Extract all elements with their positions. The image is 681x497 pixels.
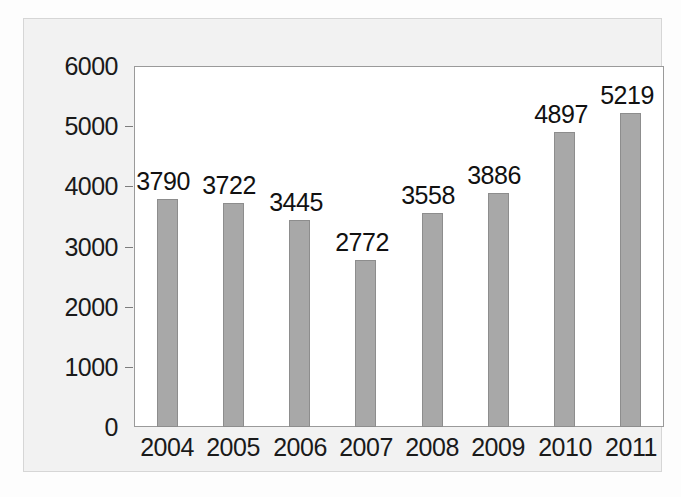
x-axis-tick-label: 2006 [265, 433, 335, 462]
bar [554, 132, 575, 427]
bar [488, 193, 509, 427]
chart-screenshot: 0100020003000400050006000 37903722344527… [0, 0, 681, 497]
y-axis-tick-mark [125, 247, 133, 248]
y-axis-tick-label: 1000 [24, 352, 118, 381]
y-axis-tick-label: 5000 [24, 112, 118, 141]
x-axis-tick-label: 2004 [132, 433, 202, 462]
bar-value-label: 2772 [329, 228, 395, 257]
bar-value-label: 3722 [196, 171, 262, 200]
x-axis-tick-label: 2010 [530, 433, 600, 462]
bar [289, 220, 310, 427]
bar [620, 113, 641, 427]
x-axis-tick-label: 2011 [596, 433, 666, 462]
bar-value-label: 3445 [263, 188, 329, 217]
x-axis-tick-label: 2008 [397, 433, 467, 462]
bar [223, 203, 244, 427]
x-axis-tick-label: 2009 [463, 433, 533, 462]
bar [422, 213, 443, 427]
bar-value-label: 3558 [395, 181, 461, 210]
x-axis-tick-label: 2007 [331, 433, 401, 462]
y-axis-tick-label: 3000 [24, 232, 118, 261]
y-axis-tick-label: 4000 [24, 172, 118, 201]
figure-frame: 0100020003000400050006000 37903722344527… [23, 18, 662, 472]
bar [355, 260, 376, 427]
x-axis-tick-label: 2005 [198, 433, 268, 462]
bar-value-label: 4897 [528, 100, 594, 129]
y-axis-tick-mark [125, 126, 133, 127]
bar-value-label: 3790 [130, 167, 196, 196]
y-axis-tick-mark [125, 367, 133, 368]
bar [157, 199, 178, 427]
bar-value-label: 5219 [594, 81, 660, 110]
y-axis-tick-label: 6000 [24, 52, 118, 81]
bar-value-label: 3886 [461, 161, 527, 190]
y-axis-tick-label: 0 [24, 413, 118, 442]
y-axis-tick-mark [125, 307, 133, 308]
y-axis-tick-label: 2000 [24, 292, 118, 321]
